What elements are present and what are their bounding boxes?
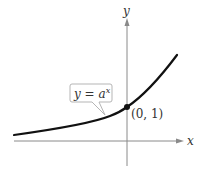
x-axis: x bbox=[14, 134, 194, 148]
intercept-point-label: (0, 1) bbox=[131, 107, 163, 121]
y-axis-label: y bbox=[122, 4, 130, 18]
y-axis-arrow-icon bbox=[125, 18, 130, 26]
y-axis: y bbox=[122, 4, 130, 166]
curve-label-text: y = ax bbox=[73, 86, 111, 101]
x-axis-label: x bbox=[187, 134, 194, 148]
curve-label-callout: y = ax bbox=[70, 84, 112, 115]
x-axis-arrow-icon bbox=[176, 139, 184, 144]
exponential-graph-figure: x y (0, 1) y = ax bbox=[0, 0, 201, 173]
intercept-point bbox=[124, 104, 130, 110]
